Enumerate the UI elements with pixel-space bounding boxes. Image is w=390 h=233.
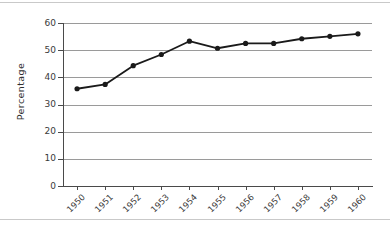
x-tick-mark [77,186,78,190]
gridline [63,50,372,51]
x-tick-mark [274,186,275,190]
x-tick-mark [358,186,359,190]
x-tick-label: 1951 [93,192,115,214]
x-tick-label: 1953 [149,192,171,214]
x-tick-label: 1956 [233,192,255,214]
gridline [63,77,372,78]
x-tick-mark [330,186,331,190]
x-tick-label: 1958 [289,192,311,214]
y-axis-tick-labels: 0102030405060 [22,0,56,233]
y-tick-label: 0 [30,182,56,191]
x-tick-label: 1960 [346,192,368,214]
y-tick-mark [58,105,63,106]
y-tick-label: 50 [30,46,56,55]
x-tick-label: 1950 [65,192,87,214]
y-tick-mark [58,132,63,133]
y-axis-line [63,23,64,187]
gridline [63,132,372,133]
x-tick-mark [246,186,247,190]
y-tick-label: 60 [30,19,56,28]
x-tick-label: 1955 [205,192,227,214]
x-tick-mark [161,186,162,190]
x-tick-mark [189,186,190,190]
x-tick-mark [133,186,134,190]
y-tick-label: 30 [30,100,56,109]
y-tick-mark [58,186,63,187]
x-tick-mark [105,186,106,190]
chart-figure: Percentage 0102030405060 195019511952195… [0,0,390,233]
frame-line-bottom [0,219,390,220]
x-tick-label: 1959 [318,192,340,214]
y-tick-label: 20 [30,127,56,136]
plot-area [63,23,372,186]
gridline [63,23,372,24]
x-tick-label: 1952 [121,192,143,214]
x-tick-label: 1954 [177,192,199,214]
x-tick-mark [302,186,303,190]
y-tick-label: 40 [30,73,56,82]
x-tick-mark [218,186,219,190]
gridline [63,105,372,106]
x-tick-label: 1957 [261,192,283,214]
frame-line-top [0,2,390,3]
y-tick-mark [58,77,63,78]
gridline [63,159,372,160]
y-tick-mark [58,23,63,24]
y-tick-label: 10 [30,154,56,163]
y-tick-mark [58,159,63,160]
y-tick-mark [58,50,63,51]
